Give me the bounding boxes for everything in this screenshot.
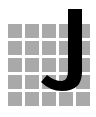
j-grid-logo	[0, 0, 96, 117]
letter-j-icon	[0, 0, 96, 117]
